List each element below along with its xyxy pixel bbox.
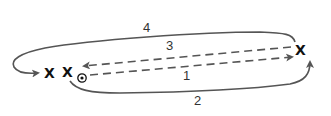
path-3-pass — [84, 47, 291, 66]
label-path-1: 1 — [183, 69, 190, 82]
label-path-4: 4 — [143, 21, 150, 34]
diagram-canvas — [0, 0, 331, 116]
player-x-left: X — [44, 66, 55, 80]
player-x-middle: X — [62, 65, 73, 79]
player-x-right: X — [295, 43, 306, 57]
play-diagram: X X X 4 3 1 2 — [0, 0, 331, 116]
label-path-3: 3 — [166, 39, 173, 52]
path-1-pass — [90, 57, 292, 75]
ball-icon — [77, 73, 87, 83]
path-4-run — [13, 32, 295, 73]
label-path-2: 2 — [194, 94, 201, 107]
